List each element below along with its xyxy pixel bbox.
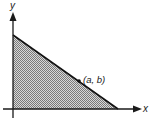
y-axis-label: y (9, 0, 16, 11)
point-a-b (77, 79, 81, 83)
x-axis-label: x (142, 103, 149, 114)
diagram: y x (a, b) (0, 0, 149, 122)
point-label: (a, b) (83, 74, 105, 85)
x-axis-arrow-icon (133, 106, 142, 113)
y-axis-arrow-icon (10, 12, 17, 21)
